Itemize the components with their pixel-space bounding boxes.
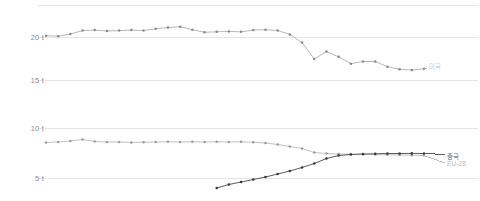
series-china-point xyxy=(374,153,377,156)
series-eu28-point xyxy=(179,141,181,143)
series-us-point xyxy=(252,29,255,32)
series-china-point xyxy=(215,187,218,190)
series-eu28-point xyxy=(228,141,230,143)
series-eu28-point xyxy=(57,141,59,143)
series-china-line xyxy=(217,153,424,188)
series-eu28-point xyxy=(301,147,303,149)
series-eu28-line xyxy=(46,140,424,156)
series-eu28-point xyxy=(45,141,47,143)
series-eu28-point xyxy=(252,141,254,143)
series-eu28-point xyxy=(94,140,96,142)
series-eu28-point xyxy=(325,152,327,154)
series-china-point xyxy=(264,176,267,179)
series-us-point xyxy=(301,41,304,44)
series-china-point xyxy=(276,173,279,176)
series-us-point xyxy=(264,28,267,31)
series-eu28-point xyxy=(313,151,315,153)
series-us-point xyxy=(154,28,157,31)
series-eu28-point xyxy=(118,141,120,143)
series-eu28-point xyxy=(216,141,218,143)
y-tick-label-5t: 5 t xyxy=(14,174,44,183)
series-us-point xyxy=(228,30,231,33)
series-us-point xyxy=(167,26,170,29)
series-us-point xyxy=(57,35,60,38)
series-eu28-point xyxy=(264,142,266,144)
chart-canvas: 20 t 15 t 10 t 5 t 미국 중국 EU-28 xyxy=(0,0,480,201)
lower-panel-series-group xyxy=(45,138,426,189)
series-eu28-point xyxy=(276,143,278,145)
series-us-point xyxy=(142,29,145,32)
series-us-point xyxy=(81,29,84,32)
series-eu28-point xyxy=(203,141,205,143)
series-us-point xyxy=(203,31,206,34)
series-china-point xyxy=(398,152,401,155)
series-us-point xyxy=(325,50,328,53)
series-us-point xyxy=(398,68,401,71)
series-eu28-point xyxy=(191,141,193,143)
series-china-point xyxy=(240,181,243,184)
series-us-point xyxy=(350,62,353,65)
series-us-point xyxy=(240,31,243,34)
series-us-point xyxy=(362,60,365,63)
series-eu28-point xyxy=(142,141,144,143)
series-china-point xyxy=(252,178,255,181)
series-china-point xyxy=(350,153,353,156)
series-eu28-point xyxy=(130,141,132,143)
series-china-point xyxy=(313,162,316,165)
series-label-us: 미국 xyxy=(429,61,441,71)
series-eu28-point xyxy=(81,138,83,140)
series-us-point xyxy=(374,60,377,63)
y-tick-label-10t: 10 t xyxy=(14,124,44,133)
series-leader-lines xyxy=(424,69,445,163)
series-us-point xyxy=(106,30,109,33)
series-china-point xyxy=(411,152,414,155)
y-tick-label-15t: 15 t xyxy=(14,76,44,85)
series-china-point xyxy=(301,166,304,169)
series-us-point xyxy=(118,29,121,32)
series-us-point xyxy=(45,34,48,37)
series-eu28-point xyxy=(106,141,108,143)
line-chart-plot-area xyxy=(0,0,480,201)
series-us-point xyxy=(276,29,279,32)
series-us-point xyxy=(69,33,72,36)
series-china-point xyxy=(289,170,292,173)
series-us-point xyxy=(313,58,316,61)
upper-panel-series-group xyxy=(45,25,426,71)
series-china-point xyxy=(228,183,231,186)
series-label-eu28: EU-28 xyxy=(447,160,466,167)
series-us-point xyxy=(191,28,194,31)
series-us-point xyxy=(411,69,414,72)
series-us-point xyxy=(337,56,340,59)
series-eu28-point xyxy=(167,141,169,143)
series-us-point xyxy=(94,29,97,32)
series-eu28-point xyxy=(240,141,242,143)
y-tick-label-20t: 20 t xyxy=(14,33,44,42)
series-eu28-point xyxy=(69,140,71,142)
series-china-point xyxy=(325,157,328,160)
series-us-point xyxy=(289,33,292,36)
series-china-point xyxy=(362,153,365,156)
series-us-point xyxy=(386,65,389,68)
leader-line-china xyxy=(424,154,445,155)
series-eu28-point xyxy=(289,145,291,147)
series-us-point xyxy=(179,25,182,28)
series-us-point xyxy=(130,29,133,32)
series-china-point xyxy=(337,154,340,157)
leader-line-eu28 xyxy=(424,156,445,164)
series-china-point xyxy=(386,152,389,155)
series-us-line xyxy=(46,27,424,70)
series-us-point xyxy=(215,31,218,34)
series-eu28-point xyxy=(155,141,157,143)
